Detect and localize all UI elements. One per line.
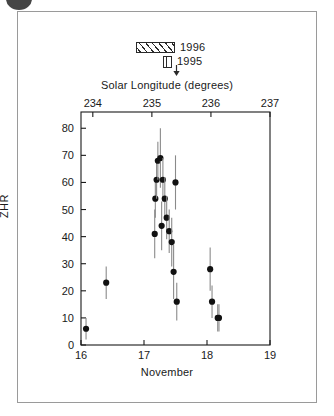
x-tick-label: 18	[201, 349, 213, 361]
point-marker	[152, 231, 158, 237]
figure-root: 1996 1995 Solar Longitude (degrees) Nove…	[0, 0, 334, 416]
data-point	[154, 161, 160, 199]
top-x-tick-label: 237	[261, 97, 279, 109]
point-marker	[103, 280, 109, 286]
x-tick-label: 19	[264, 349, 276, 361]
data-point	[207, 247, 213, 290]
plot-frame	[81, 112, 270, 345]
point-marker	[171, 269, 177, 275]
x-tick-label: 17	[138, 349, 150, 361]
point-marker	[83, 326, 89, 332]
scatter-plot: 1617181923423523623701020304050607080	[0, 0, 334, 416]
y-tick-label: 40	[62, 231, 74, 243]
y-tick-label: 10	[62, 312, 74, 324]
data-point	[159, 201, 165, 250]
data-point	[152, 210, 158, 259]
point-marker	[169, 239, 175, 245]
data-point	[174, 283, 180, 321]
point-marker	[154, 177, 160, 183]
y-tick-label: 0	[68, 339, 74, 351]
data-point	[83, 318, 89, 340]
point-marker	[174, 299, 180, 305]
point-marker	[159, 223, 165, 229]
top-x-tick-label: 234	[84, 97, 102, 109]
y-tick-label: 70	[62, 149, 74, 161]
point-marker	[152, 196, 158, 202]
top-x-tick-label: 235	[143, 97, 161, 109]
data-point	[216, 304, 222, 331]
y-tick-label: 80	[62, 122, 74, 134]
point-marker	[216, 315, 222, 321]
data-point	[172, 155, 178, 209]
point-marker	[172, 179, 178, 185]
y-tick-label: 60	[62, 176, 74, 188]
y-tick-label: 50	[62, 204, 74, 216]
top-x-tick-label: 236	[202, 97, 220, 109]
y-tick-label: 30	[62, 258, 74, 270]
data-point	[152, 180, 158, 218]
point-marker	[207, 266, 213, 272]
y-tick-label: 20	[62, 285, 74, 297]
data-points-layer	[83, 128, 222, 339]
x-tick-label: 16	[75, 349, 87, 361]
data-point	[103, 266, 109, 299]
point-marker	[209, 299, 215, 305]
